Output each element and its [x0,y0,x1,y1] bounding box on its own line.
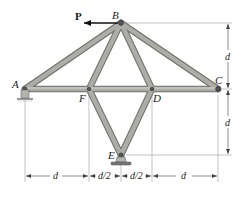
member-de [121,89,152,155]
dim-horizontal-4: d [181,170,187,181]
joint-e-pin [119,153,123,157]
truss-diagram: P A B C D F E d d d d/2 d/2 d [0,0,244,206]
dim-vertical-upper: d [225,51,231,62]
joint-label-b: B [112,9,119,21]
extension-lines [25,23,232,182]
truss-members [25,23,218,155]
joint-label-c: C [215,74,223,86]
joint-label-e: E [107,149,115,161]
joint-c-pin [216,87,221,92]
joint-d-pin [150,87,154,91]
joint-label-d: D [152,92,161,104]
dim-horizontal-3: d/2 [130,170,143,181]
joint-label-a: A [11,78,19,90]
joint-b-pin [119,21,124,26]
member-fe [89,89,121,155]
joint-f-pin [87,87,91,91]
load-label-p: P [75,10,82,22]
dim-vertical-lower: d [225,117,231,128]
dim-horizontal-2: d/2 [98,170,111,181]
joint-label-f: F [78,92,86,104]
dim-horizontal-1: d [53,170,59,181]
